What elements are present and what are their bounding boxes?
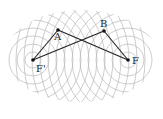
label-A: A bbox=[53, 31, 62, 42]
circle-fprime-14 bbox=[0, 0, 145, 119]
circle-f-7 bbox=[72, 4, 163, 116]
circle-f-12 bbox=[32, 0, 163, 119]
circle-f-8 bbox=[64, 0, 163, 119]
segment-B-F bbox=[104, 31, 128, 60]
circle-fprime-8 bbox=[0, 0, 97, 119]
diagram-canvas: F'FAB bbox=[0, 0, 163, 119]
circle-f-14 bbox=[16, 0, 163, 119]
circle-f-13 bbox=[24, 0, 163, 119]
circle-fprime-6 bbox=[0, 12, 81, 108]
circle-fprime-7 bbox=[0, 4, 89, 116]
point-F' bbox=[31, 58, 35, 62]
circle-fprime-12 bbox=[0, 0, 129, 119]
label-B: B bbox=[100, 18, 107, 29]
label-F: F bbox=[132, 55, 139, 66]
point-B bbox=[102, 29, 106, 33]
label-F': F' bbox=[36, 63, 46, 74]
foci-diagram: F'FAB bbox=[0, 0, 163, 119]
circle-f-6 bbox=[80, 12, 163, 108]
point-F bbox=[126, 58, 130, 62]
